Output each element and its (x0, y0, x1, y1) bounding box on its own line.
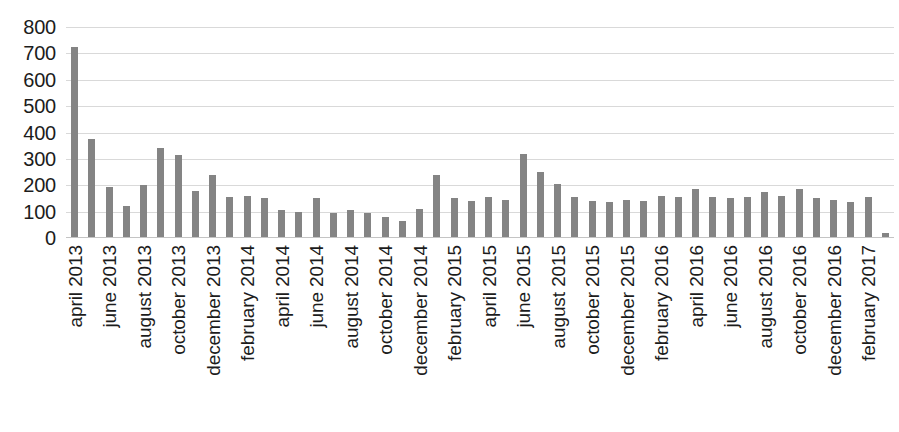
bar-slot (170, 27, 187, 238)
x-axis-tick-label: june 2015 (514, 245, 533, 328)
x-label-slot: february 2014 (239, 241, 256, 416)
bar[interactable] (640, 201, 647, 238)
x-axis-tick-label: december 2014 (410, 245, 429, 376)
bar-slot (152, 27, 169, 238)
bar[interactable] (416, 209, 423, 238)
x-axis-tick-label: august 2013 (134, 245, 153, 349)
bar-slot (722, 27, 739, 238)
bar[interactable] (744, 197, 751, 238)
bar-slot (618, 27, 635, 238)
bar[interactable] (865, 197, 872, 238)
x-axis-tick-label: october 2014 (376, 245, 395, 355)
bar[interactable] (537, 172, 544, 238)
x-label-slot (601, 241, 618, 416)
bar[interactable] (451, 198, 458, 238)
bar[interactable] (571, 197, 578, 238)
bar[interactable] (295, 212, 302, 238)
x-label-slot: august 2014 (342, 241, 359, 416)
bar[interactable] (606, 202, 613, 238)
x-label-slot (118, 241, 135, 416)
bar[interactable] (623, 200, 630, 238)
bar[interactable] (175, 155, 182, 238)
bar[interactable] (485, 197, 492, 238)
bar-slot (566, 27, 583, 238)
x-axis-tick-label: december 2016 (824, 245, 843, 376)
bar[interactable] (347, 210, 354, 238)
bar[interactable] (382, 217, 389, 238)
bar-slot (808, 27, 825, 238)
bar-slot (239, 27, 256, 238)
bar-slot (480, 27, 497, 238)
x-label-slot: february 2016 (653, 241, 670, 416)
bar[interactable] (140, 185, 147, 238)
bar[interactable] (209, 175, 216, 238)
bar[interactable] (313, 198, 320, 238)
bar[interactable] (278, 210, 285, 238)
bar-slot (549, 27, 566, 238)
bar[interactable] (658, 196, 665, 238)
bar-slot (325, 27, 342, 238)
bar[interactable] (727, 198, 734, 238)
bar[interactable] (399, 221, 406, 238)
bar[interactable] (192, 191, 199, 238)
bar-slot (601, 27, 618, 238)
bar[interactable] (106, 187, 113, 238)
bar[interactable] (157, 148, 164, 238)
bar[interactable] (88, 139, 95, 238)
x-label-slot: april 2016 (687, 241, 704, 416)
bar-slot (359, 27, 376, 238)
y-axis-tick-label: 800 (0, 17, 56, 37)
x-label-slot: april 2015 (480, 241, 497, 416)
bar[interactable] (589, 201, 596, 238)
bar[interactable] (830, 200, 837, 238)
x-label-slot: december 2016 (825, 241, 842, 416)
bar[interactable] (364, 213, 371, 238)
y-axis-tick-label: 400 (0, 123, 56, 143)
bar[interactable] (709, 197, 716, 238)
bar[interactable] (433, 175, 440, 238)
bar[interactable] (226, 197, 233, 238)
bar-series (66, 27, 894, 238)
bar[interactable] (123, 206, 130, 238)
bar[interactable] (675, 197, 682, 238)
bar-slot (635, 27, 652, 238)
bar-slot (860, 27, 877, 238)
bar-slot (532, 27, 549, 238)
x-axis-labels: april 2013june 2013august 2013october 20… (66, 241, 894, 416)
bar-slot (308, 27, 325, 238)
y-axis-tick-label: 0 (0, 228, 56, 248)
x-label-slot: december 2015 (618, 241, 635, 416)
bar-slot (428, 27, 445, 238)
x-axis-tick-label: august 2016 (755, 245, 774, 349)
bar[interactable] (778, 196, 785, 238)
x-axis-tick-label: december 2015 (617, 245, 636, 376)
bar[interactable] (520, 154, 527, 238)
bar[interactable] (502, 200, 509, 238)
x-label-slot: december 2013 (204, 241, 221, 416)
x-axis-tick-label: october 2015 (583, 245, 602, 355)
bar[interactable] (761, 192, 768, 238)
y-axis-tick-label: 200 (0, 175, 56, 195)
x-axis-tick-label: june 2016 (721, 245, 740, 328)
bar[interactable] (330, 213, 337, 238)
x-label-slot: june 2016 (722, 241, 739, 416)
bar[interactable] (554, 184, 561, 238)
x-label-slot: june 2014 (308, 241, 325, 416)
bar[interactable] (244, 196, 251, 238)
bar-slot (670, 27, 687, 238)
y-axis: 8007006005004003002001000 (0, 18, 62, 240)
bar[interactable] (261, 198, 268, 238)
bar[interactable] (796, 189, 803, 238)
x-label-slot (256, 241, 273, 416)
bar[interactable] (847, 202, 854, 238)
x-axis-tick-label: february 2017 (859, 245, 878, 361)
x-label-slot: february 2015 (446, 241, 463, 416)
bar-slot (687, 27, 704, 238)
bar[interactable] (71, 47, 78, 238)
bar-slot (446, 27, 463, 238)
bar[interactable] (692, 189, 699, 238)
bar[interactable] (813, 198, 820, 238)
bar[interactable] (468, 201, 475, 238)
bar-slot (791, 27, 808, 238)
bar-slot (221, 27, 238, 238)
